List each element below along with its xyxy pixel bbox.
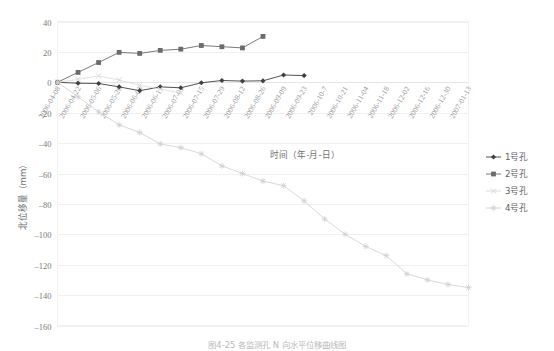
y-tick-label: –140 (34, 291, 52, 301)
data-point-marker (322, 216, 328, 222)
legend-item-3[interactable]: 3号孔 (486, 186, 528, 196)
data-point-marker (301, 198, 307, 204)
chart-legend: 1号孔2号孔3号孔4号孔 (486, 152, 528, 213)
data-point-marker (466, 285, 472, 291)
y-tick-label: –160 (34, 322, 52, 332)
series-2 (55, 34, 265, 85)
y-tick-label: –100 (34, 230, 52, 240)
figure-caption: 图4-25 各监测孔 N 向水平位移曲线图 (208, 340, 345, 350)
data-point-marker (178, 47, 183, 52)
data-point-marker (491, 172, 496, 177)
legend-item-label: 4号孔 (505, 203, 528, 213)
displacement-line-chart: 40200–20–40–60–80–100–120–140–160 2006-0… (0, 0, 554, 351)
data-point-marker (220, 44, 225, 49)
legend-item-label: 2号孔 (505, 169, 528, 179)
data-point-marker (445, 281, 451, 287)
chart-container: 40200–20–40–60–80–100–120–140–160 2006-0… (0, 0, 554, 351)
data-point-marker (157, 141, 163, 147)
data-point-marker (199, 43, 204, 48)
data-point-marker (491, 154, 496, 159)
y-tick-label: –120 (34, 261, 52, 271)
data-point-marker (342, 231, 348, 237)
y-tick-label: –40 (38, 139, 52, 149)
data-series-layer (55, 34, 472, 291)
y-tick-label: –80 (38, 200, 52, 210)
x-axis-title: 时间（年-月-日） (270, 149, 339, 160)
data-point-marker (240, 46, 245, 51)
data-point-marker (137, 51, 142, 56)
data-point-marker (158, 48, 163, 53)
data-point-marker (137, 129, 143, 135)
gridlines-group (58, 23, 469, 327)
data-point-marker (260, 178, 266, 184)
data-point-marker (75, 94, 81, 100)
data-point-marker (239, 171, 245, 177)
data-point-marker (424, 277, 430, 283)
data-point-marker (281, 72, 286, 77)
data-point-marker (96, 109, 102, 115)
legend-item-label: 3号孔 (505, 186, 528, 196)
data-point-marker (178, 145, 184, 151)
data-point-marker (491, 205, 497, 211)
series-line (58, 36, 264, 82)
x-axis-tick-labels: 2006-04-082006-04-222006-05-062006-05-20… (37, 85, 474, 120)
y-tick-label: 40 (43, 18, 52, 28)
data-point-marker (281, 183, 287, 189)
data-point-marker (302, 73, 307, 78)
y-tick-label: 20 (43, 48, 52, 58)
data-point-marker (198, 151, 204, 157)
y-tick-label: –60 (38, 170, 52, 180)
data-point-marker (117, 50, 122, 55)
y-tick-label: 0 (47, 78, 51, 88)
data-point-marker (383, 253, 389, 259)
data-point-marker (363, 243, 369, 249)
data-point-marker (261, 34, 266, 39)
data-point-marker (404, 271, 410, 277)
y-axis-title: 北位移量（mm） (17, 160, 28, 231)
legend-item-label: 1号孔 (505, 152, 528, 162)
data-point-marker (96, 60, 101, 65)
y-axis-tick-labels: 40200–20–40–60–80–100–120–140–160 (34, 18, 52, 332)
data-point-marker (76, 70, 81, 75)
plot-area-border (58, 22, 469, 326)
data-point-marker (96, 81, 101, 86)
legend-item-4[interactable]: 4号孔 (486, 203, 528, 213)
data-point-marker (199, 80, 204, 85)
data-point-marker (219, 163, 225, 169)
data-point-marker (116, 122, 122, 128)
data-point-marker (55, 79, 61, 85)
legend-item-2[interactable]: 2号孔 (486, 169, 528, 179)
legend-item-1[interactable]: 1号孔 (486, 152, 528, 162)
